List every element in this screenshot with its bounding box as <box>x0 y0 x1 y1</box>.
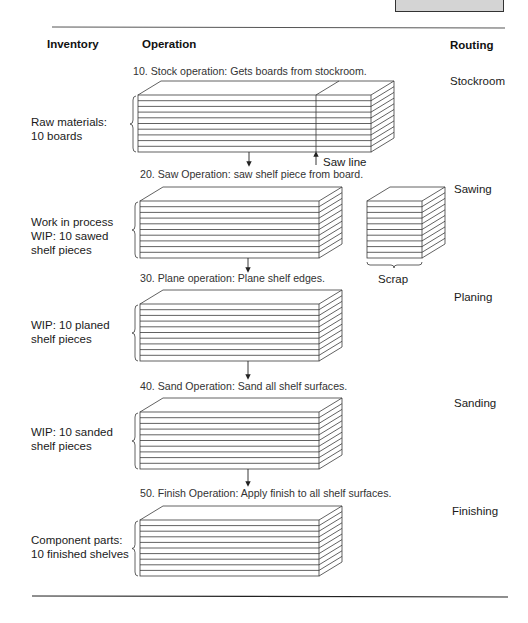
operation-30-label: 30. Plane operation: Plane shelf edges. <box>140 272 325 284</box>
routing-planing: Planing <box>454 291 492 303</box>
bottom-rule <box>32 596 508 597</box>
routing-sanding: Sanding <box>454 397 496 409</box>
inventory-brace <box>132 305 138 361</box>
routing-stockroom: Stockroom <box>450 75 505 87</box>
inventory-brace <box>132 521 138 576</box>
operation-40-label: 40. Sand Operation: Sand all shelf surfa… <box>140 380 347 392</box>
inventory-sawed-wip: Work in process WIP: 10 sawed shelf piec… <box>31 215 113 257</box>
header-inventory: Inventory <box>47 38 99 50</box>
shelf-production-diagram <box>0 0 528 623</box>
inventory-component-parts: Component parts: 10 finished shelves <box>31 533 129 561</box>
saw-line-label: Saw line <box>323 156 366 168</box>
scrap-stack <box>367 187 445 258</box>
inventory-planed-wip: WIP: 10 planed shelf pieces <box>31 318 110 346</box>
header-operation: Operation <box>142 38 196 50</box>
scrap-brace <box>367 262 422 268</box>
inventory-brace <box>132 202 138 258</box>
inventory-sanded-wip: WIP: 10 sanded shelf pieces <box>31 425 113 453</box>
inventory-brace <box>130 96 136 152</box>
operation-50-label: 50. Finish Operation: Apply finish to al… <box>140 487 391 499</box>
header-routing: Routing <box>450 39 493 51</box>
operation-20-label: 20. Saw Operation: saw shelf piece from … <box>140 168 363 180</box>
board-stack-finished <box>132 506 342 576</box>
inventory-brace <box>132 413 138 469</box>
board-stack-sanded <box>132 398 342 469</box>
operation-10-label: 10. Stock operation: Gets boards from st… <box>133 65 367 77</box>
inventory-raw-materials: Raw materials: 10 boards <box>31 115 107 143</box>
scrap-label: Scrap <box>378 273 408 285</box>
board-stack-planed <box>132 290 342 361</box>
routing-sawing: Sawing <box>454 183 492 195</box>
top-rule <box>52 27 505 28</box>
board-stack-sawed <box>132 187 342 258</box>
board-stack-raw <box>130 81 394 152</box>
routing-finishing: Finishing <box>452 505 498 517</box>
